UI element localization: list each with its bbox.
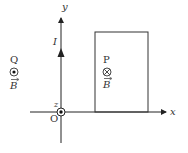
point-q-label: Q bbox=[10, 54, 18, 65]
point-p-label: P bbox=[103, 54, 110, 65]
current-label: I bbox=[52, 36, 58, 47]
y-axis-label: y bbox=[61, 1, 68, 12]
z-axis-label: z bbox=[53, 100, 59, 109]
z-axis-dot bbox=[59, 110, 62, 113]
field-p-label: B bbox=[102, 79, 110, 90]
field-into-page-icon bbox=[103, 68, 111, 76]
x-axis-label: x bbox=[170, 106, 176, 117]
current-arrow-icon bbox=[58, 48, 65, 57]
field-q-label: B bbox=[9, 80, 17, 91]
field-out-of-page-icon bbox=[10, 68, 18, 76]
magnetic-field-diagram: y I x z O P B Q B bbox=[0, 0, 188, 153]
origin-label: O bbox=[50, 113, 58, 124]
